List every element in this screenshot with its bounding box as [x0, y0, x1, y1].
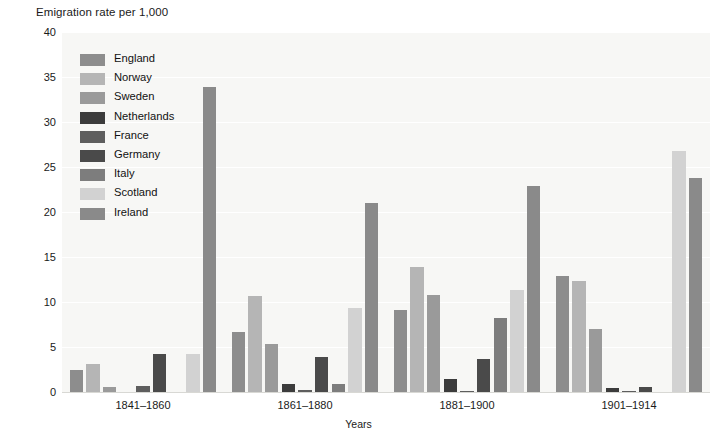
legend-swatch-icon-scotland — [80, 188, 105, 200]
bar-germany-1881–1900 — [477, 359, 491, 392]
y-tick-label-0: 0 — [26, 386, 56, 398]
bar-scotland-1841–1860 — [186, 354, 200, 392]
legend-item-label: Netherlands — [114, 110, 174, 122]
legend-item-label: Italy — [114, 167, 135, 179]
bar-sweden-1881–1900 — [427, 295, 441, 392]
y-tick-label-35: 35 — [26, 71, 56, 83]
bar-netherlands-1881–1900 — [444, 379, 458, 392]
bar-scotland-1901–1914 — [672, 151, 686, 392]
bar-france-1881–1900 — [460, 391, 474, 392]
bar-england-1841–1860 — [70, 370, 84, 392]
bar-norway-1861–1880 — [248, 296, 262, 392]
gridline-5 — [62, 347, 710, 348]
x-group-label-1841–1860: 1841–1860 — [115, 399, 170, 411]
bar-england-1881–1900 — [394, 310, 408, 392]
bar-italy-1861–1880 — [332, 384, 346, 392]
bar-norway-1881–1900 — [410, 267, 424, 392]
legend-swatch-icon-england — [80, 54, 105, 66]
bar-italy-1881–1900 — [494, 318, 508, 392]
plot-area — [62, 32, 710, 392]
bar-france-1841–1860 — [136, 386, 150, 392]
gridline-20 — [62, 212, 710, 213]
bar-germany-1861–1880 — [315, 357, 329, 392]
y-tick-label-30: 30 — [26, 116, 56, 128]
gridline-10 — [62, 302, 710, 303]
bar-scotland-1881–1900 — [510, 290, 524, 392]
emigration-rate-bar-chart: Emigration rate per 1,000 05101520253035… — [0, 0, 717, 435]
y-tick-label-40: 40 — [26, 26, 56, 38]
bar-sweden-1901–1914 — [589, 329, 603, 392]
x-axis-baseline — [62, 392, 710, 393]
legend-item-label: Sweden — [114, 90, 154, 102]
bar-scotland-1861–1880 — [348, 308, 362, 392]
y-tick-label-20: 20 — [26, 206, 56, 218]
bar-ireland-1901–1914 — [689, 178, 703, 392]
bar-france-1901–1914 — [622, 391, 636, 392]
y-tick-label-25: 25 — [26, 161, 56, 173]
bar-sweden-1841–1860 — [103, 387, 117, 392]
x-axis-title: Years — [0, 418, 717, 430]
bar-sweden-1861–1880 — [265, 344, 279, 392]
gridline-30 — [62, 122, 710, 123]
bar-england-1861–1880 — [232, 332, 246, 392]
legend-swatch-icon-germany — [80, 150, 105, 162]
y-tick-label-15: 15 — [26, 251, 56, 263]
x-group-label-1901–1914: 1901–1914 — [601, 399, 656, 411]
bar-netherlands-1861–1880 — [282, 384, 296, 392]
bar-ireland-1881–1900 — [527, 186, 541, 392]
gridline-15 — [62, 257, 710, 258]
legend-item-label: Germany — [114, 148, 160, 160]
legend-swatch-icon-france — [80, 131, 105, 143]
bar-netherlands-1901–1914 — [606, 388, 620, 393]
legend-item-label: Norway — [114, 71, 152, 83]
gridline-35 — [62, 77, 710, 78]
bar-germany-1901–1914 — [639, 387, 653, 392]
bar-norway-1901–1914 — [572, 281, 586, 392]
gridline-25 — [62, 167, 710, 168]
legend-swatch-icon-ireland — [80, 208, 105, 220]
legend-item-label: France — [114, 129, 149, 141]
x-group-label-1881–1900: 1881–1900 — [439, 399, 494, 411]
legend-swatch-icon-italy — [80, 169, 105, 181]
y-axis: 0510152025303540 — [22, 0, 56, 435]
bar-france-1861–1880 — [298, 390, 312, 392]
y-tick-label-10: 10 — [26, 296, 56, 308]
bar-england-1901–1914 — [556, 276, 570, 392]
x-group-label-1861–1880: 1861–1880 — [277, 399, 332, 411]
legend-swatch-icon-norway — [80, 73, 105, 85]
gridline-40 — [62, 32, 710, 33]
legend-swatch-icon-netherlands — [80, 112, 105, 124]
bar-germany-1841–1860 — [153, 354, 167, 392]
bar-norway-1841–1860 — [86, 364, 100, 392]
bar-ireland-1861–1880 — [365, 203, 379, 392]
legend-swatch-icon-sweden — [80, 92, 105, 104]
legend-item-label: England — [114, 52, 155, 64]
y-tick-label-5: 5 — [26, 341, 56, 353]
legend-item-label: Ireland — [114, 206, 148, 218]
legend-item-label: Scotland — [114, 186, 158, 198]
bar-ireland-1841–1860 — [203, 87, 217, 392]
